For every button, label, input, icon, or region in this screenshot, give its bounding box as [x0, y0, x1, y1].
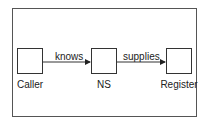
node-caller: [17, 48, 43, 74]
node-label-register: Register: [149, 79, 206, 90]
node-register: [166, 48, 192, 74]
node-label-caller: Caller: [0, 79, 60, 90]
node-ns: [91, 48, 117, 74]
edge-label-knows: knows: [55, 51, 83, 62]
node-label-ns: NS: [74, 79, 134, 90]
edge-label-supplies: supplies: [123, 51, 160, 62]
